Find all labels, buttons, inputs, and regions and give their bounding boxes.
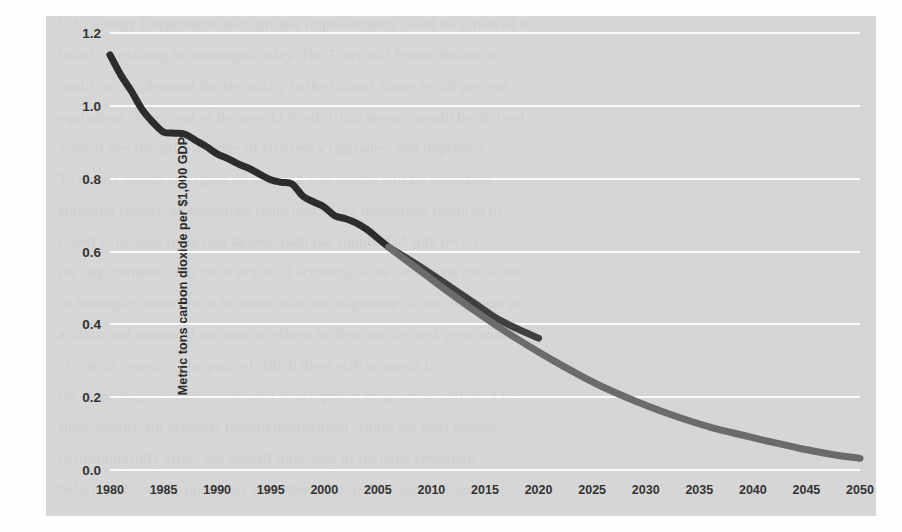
x-tick-label: 2050 [846, 483, 874, 497]
x-tick-label: 2025 [578, 483, 606, 497]
x-tick-label: 2045 [793, 483, 821, 497]
x-tick-label: 2010 [418, 483, 446, 497]
y-tick-label: 0.4 [82, 317, 101, 332]
x-tick-label: 1985 [150, 483, 178, 497]
y-tick-label: 0.8 [82, 171, 101, 186]
y-tick-label: 1.2 [82, 26, 101, 41]
plot-panel: 0.00.20.40.60.81.01.2 198019851990199520… [110, 33, 860, 470]
y-tick-label: 0.2 [82, 390, 101, 405]
y-tick-label: 1.0 [82, 98, 101, 113]
x-tick-label: 1980 [96, 483, 124, 497]
x-tick-label: 2040 [739, 483, 767, 497]
x-tick-label: 2030 [632, 483, 660, 497]
x-tick-label: 2020 [525, 483, 553, 497]
chart-figure: Metric tons carbon dioxide per $1,000 GD… [46, 16, 876, 516]
y-tick-label: 0.0 [82, 463, 101, 478]
series-lines [110, 33, 860, 470]
series-line-historical [110, 55, 389, 247]
x-tick-label: 2000 [310, 483, 338, 497]
x-tick-label: 2035 [685, 483, 713, 497]
x-tick-label: 2005 [364, 483, 392, 497]
x-tick-label: 1990 [203, 483, 231, 497]
y-tick-label: 0.6 [82, 244, 101, 259]
x-tick-label: 1995 [257, 483, 285, 497]
series-line-projection_long [389, 247, 860, 458]
x-tick-label: 2015 [471, 483, 499, 497]
